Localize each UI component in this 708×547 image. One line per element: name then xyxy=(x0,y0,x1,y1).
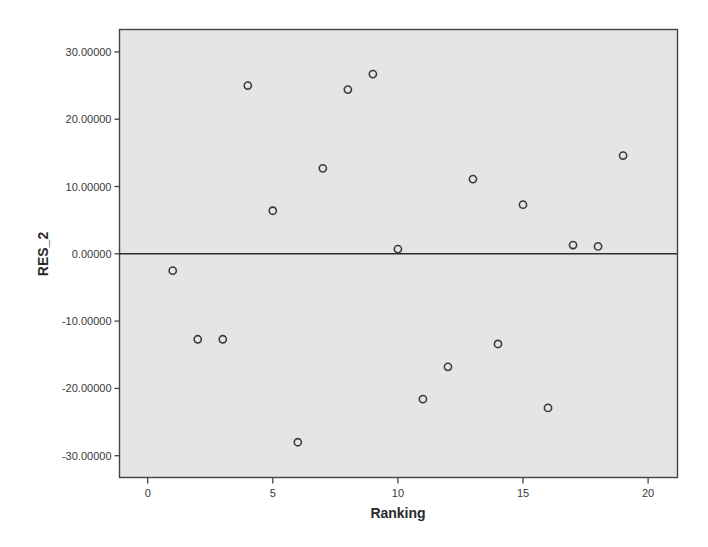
x-tick-label: 0 xyxy=(145,487,151,499)
x-tick-label: 5 xyxy=(270,487,276,499)
x-axis: 05101520 xyxy=(145,478,655,499)
x-tick-label: 15 xyxy=(517,487,529,499)
x-tick-label: 20 xyxy=(642,487,654,499)
y-axis-title: RES_2 xyxy=(35,232,51,277)
y-tick-label: 20.00000 xyxy=(66,113,112,125)
x-axis-title: Ranking xyxy=(370,505,425,521)
y-tick-label: -30.00000 xyxy=(62,450,112,462)
y-tick-label: 10.00000 xyxy=(66,181,112,193)
y-tick-label: -10.00000 xyxy=(62,315,112,327)
x-tick-label: 10 xyxy=(392,487,404,499)
y-tick-label: 30.00000 xyxy=(66,46,112,58)
scatter-chart: 30.0000020.0000010.000000.00000-10.00000… xyxy=(0,0,708,547)
y-tick-label: 0.00000 xyxy=(72,248,112,260)
y-axis: 30.0000020.0000010.000000.00000-10.00000… xyxy=(62,46,120,462)
y-tick-label: -20.00000 xyxy=(62,382,112,394)
